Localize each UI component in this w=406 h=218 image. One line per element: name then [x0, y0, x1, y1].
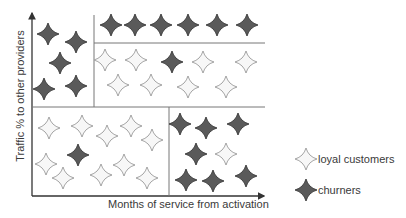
loyal-star-icon — [38, 117, 60, 139]
loyal-star-icon — [35, 153, 57, 175]
churner-star-icon — [175, 169, 197, 191]
loyal-star-icon — [94, 49, 116, 71]
loyal-star-icon — [192, 51, 214, 73]
churner-star-icon — [202, 170, 224, 192]
churner-star-icon — [195, 117, 217, 139]
legend — [295, 148, 317, 201]
churner-star-icon — [150, 14, 172, 36]
legend-label-loyal: loyal customers — [318, 153, 394, 165]
loyal-star-icon — [90, 164, 112, 186]
churner-star-icon — [67, 144, 89, 166]
star-markers — [33, 14, 258, 192]
churner-star-icon — [49, 52, 71, 74]
churner-star-icon — [206, 14, 228, 36]
loyal-star-icon — [177, 76, 199, 98]
loyal-star-icon — [136, 167, 158, 189]
churner-star-icon — [124, 14, 146, 36]
loyal-star-icon — [295, 148, 317, 170]
churner-star-icon — [100, 14, 122, 36]
loyal-star-icon — [120, 115, 142, 137]
churner-star-icon — [33, 78, 55, 100]
x-axis-label: Months of service from activation — [108, 198, 269, 210]
loyal-star-icon — [125, 49, 147, 71]
loyal-star-icon — [140, 74, 162, 96]
loyal-star-icon — [235, 51, 257, 73]
loyal-star-icon — [52, 167, 74, 189]
loyal-star-icon — [113, 154, 135, 176]
churner-star-icon — [169, 113, 191, 135]
churner-star-icon — [295, 179, 317, 201]
legend-label-churners: churners — [318, 184, 361, 196]
churner-star-icon — [65, 31, 87, 53]
loyal-star-icon — [215, 143, 237, 165]
churner-star-icon — [235, 165, 257, 187]
churner-star-icon — [185, 143, 207, 165]
churner-star-icon — [65, 75, 87, 97]
churner-star-icon — [227, 113, 249, 135]
churner-star-icon — [177, 14, 199, 36]
loyal-star-icon — [215, 76, 237, 98]
loyal-star-icon — [107, 74, 129, 96]
churner-star-icon — [37, 23, 59, 45]
y-axis-label: Traffic % to other providers — [14, 30, 26, 161]
churner-star-icon — [161, 51, 183, 73]
loyal-star-icon — [71, 115, 93, 137]
loyal-star-icon — [141, 129, 163, 151]
churner-star-icon — [236, 14, 258, 36]
loyal-star-icon — [96, 125, 118, 147]
